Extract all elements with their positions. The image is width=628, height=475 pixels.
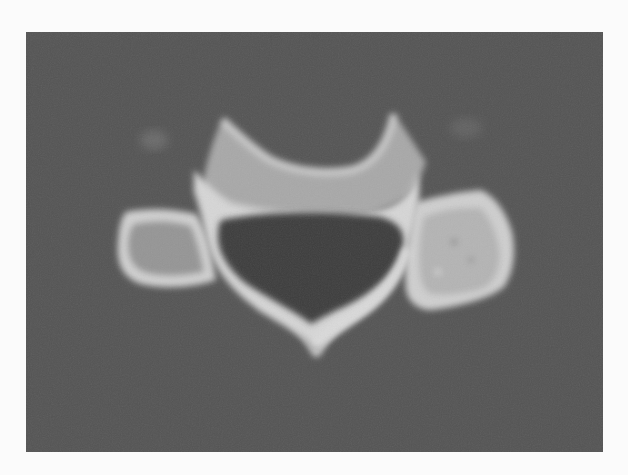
page: [0, 0, 628, 475]
scan-noise: [26, 32, 603, 452]
vertebra-illustration: [26, 32, 603, 452]
ct-scan-image: [26, 32, 603, 452]
